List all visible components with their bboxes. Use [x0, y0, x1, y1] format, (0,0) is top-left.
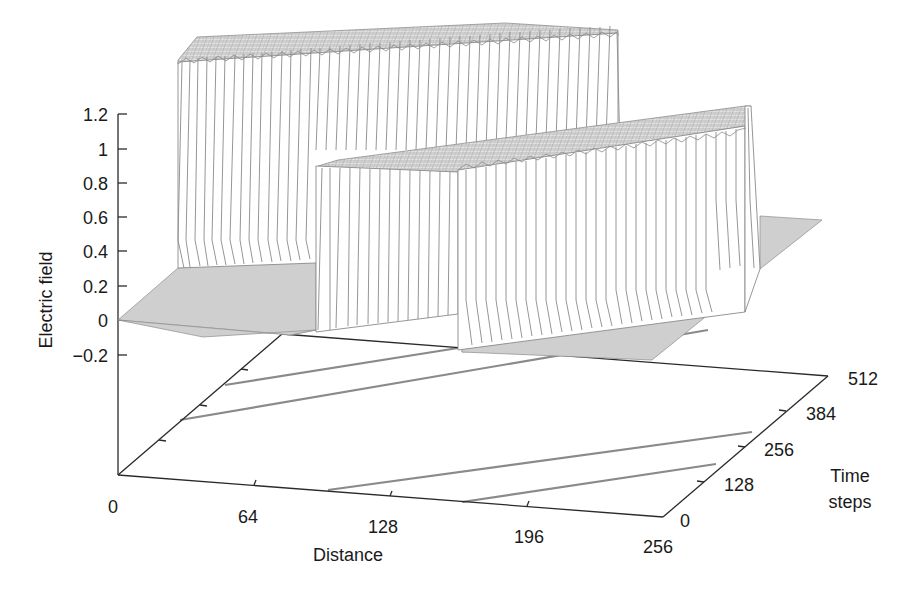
time-tick-label: 256 — [764, 440, 794, 460]
z-axis-label: Electric field — [36, 251, 56, 348]
distance-tick-label: 64 — [238, 507, 258, 527]
time-ticks-left — [159, 369, 248, 441]
time-axis — [663, 376, 828, 517]
distance-ticks — [254, 480, 529, 506]
distance-tick-label: 0 — [108, 497, 118, 517]
z-tick-label: 0.2 — [83, 277, 108, 297]
distance-tick-label: 256 — [643, 537, 673, 557]
time-tick-label: 128 — [724, 475, 754, 495]
time-tick-label: 384 — [806, 404, 836, 424]
time-tick-label: 512 — [848, 369, 878, 389]
distance-tick-label: 128 — [368, 517, 398, 537]
z-tick-label: 0.8 — [83, 174, 108, 194]
z-tick-label: −0.2 — [72, 346, 108, 366]
x-axis-label: Distance — [313, 545, 383, 565]
z-tick-labels: 1.2 1 0.8 0.6 0.4 0.2 0 −0.2 — [72, 105, 108, 366]
time-axis-left — [118, 334, 282, 475]
z-tick-label: 0 — [98, 311, 108, 331]
y-axis-label-line1: Time — [830, 466, 869, 486]
z-tick-label: 1 — [98, 140, 108, 160]
z-tick-label: 0.4 — [83, 242, 108, 262]
z-tick-label: 1.2 — [83, 105, 108, 125]
distance-tick-label: 196 — [514, 527, 544, 547]
distance-tick-labels: 0 64 128 196 256 — [108, 497, 673, 557]
surface-plot: 1.2 1 0.8 0.6 0.4 0.2 0 −0.2 0 64 128 19… — [0, 0, 914, 590]
time-tick-label: 0 — [680, 511, 690, 531]
contour-projection — [180, 330, 752, 502]
y-axis-label-line2: steps — [828, 492, 871, 512]
z-tick-label: 0.6 — [83, 208, 108, 228]
